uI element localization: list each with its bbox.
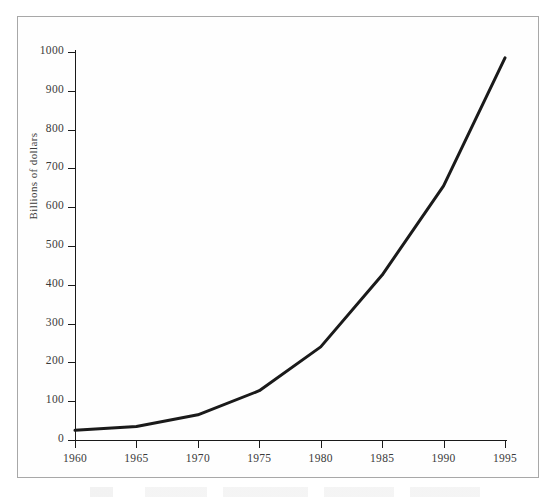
- series-layer: [0, 0, 557, 500]
- caption-ghost: [90, 487, 480, 497]
- chart-figure: Billions of dollars 01002003004005006007…: [0, 0, 557, 500]
- line-series-billions-of-dollars: [75, 58, 505, 430]
